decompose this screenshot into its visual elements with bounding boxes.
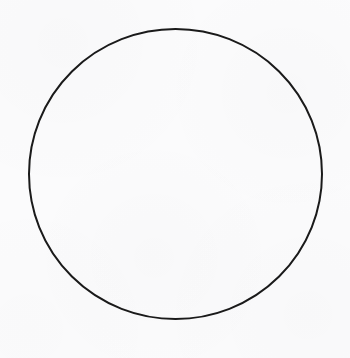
drawing-canvas: [0, 0, 350, 358]
figure-svg: [0, 0, 350, 358]
circle-outline[interactable]: [29, 29, 322, 319]
